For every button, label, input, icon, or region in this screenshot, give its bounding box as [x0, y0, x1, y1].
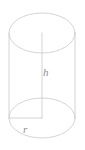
- radius-label: r: [23, 124, 27, 135]
- cylinder-figure: h r: [0, 0, 85, 150]
- height-label: h: [43, 67, 49, 78]
